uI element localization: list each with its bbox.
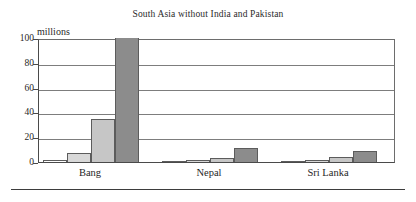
bar[interactable] — [353, 151, 377, 162]
plot-area — [38, 39, 395, 163]
bar[interactable] — [91, 119, 115, 162]
y-axis-tick-mark — [33, 163, 38, 164]
x-axis-category-label: Bang — [42, 167, 138, 178]
chart-figure: South Asia without India and Pakistan mi… — [0, 0, 416, 202]
bar-group-sri-lanka — [281, 40, 377, 162]
y-axis-unit-label: millions — [37, 26, 70, 37]
y-axis-tick-mark — [33, 138, 38, 139]
bar[interactable] — [234, 148, 258, 162]
y-axis-tick-mark — [33, 64, 38, 65]
x-axis-category-label: Sri Lanka — [280, 167, 376, 178]
bar-group-bang — [43, 40, 139, 162]
y-axis-tick-label: 100 — [20, 34, 34, 44]
bar[interactable] — [186, 160, 210, 162]
y-axis-tick-mark — [33, 89, 38, 90]
bar[interactable] — [305, 160, 329, 162]
x-axis-category-label: Nepal — [161, 167, 257, 178]
bottom-rule — [11, 189, 405, 190]
y-axis-tick-labels: 020406080100 — [6, 39, 34, 163]
bar[interactable] — [329, 157, 353, 162]
y-axis-tick-mark — [33, 113, 38, 114]
bar[interactable] — [162, 161, 186, 163]
bar[interactable] — [281, 161, 305, 163]
bar[interactable] — [67, 153, 91, 162]
bar[interactable] — [115, 38, 139, 162]
y-axis-tick-mark — [33, 39, 38, 40]
bar-group-nepal — [162, 40, 258, 162]
bar[interactable] — [43, 160, 67, 162]
bar[interactable] — [210, 158, 234, 162]
chart-title: South Asia without India and Pakistan — [0, 9, 416, 19]
